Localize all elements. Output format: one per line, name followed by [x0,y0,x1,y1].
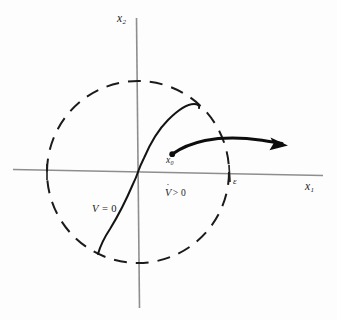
v-zero-symbol: V [92,203,99,214]
x1-axis-line [13,170,323,176]
phase-plane-figure: x2 x1 x0 ε V = 0 ˙V> 0 [0,0,337,320]
initial-state-label-base: x [166,154,170,165]
v-zero-curve [98,104,199,254]
v-zero-equals: = 0 [99,203,117,214]
x2-axis-label: x2 [117,13,126,25]
x2-axis-label-subscript: 2 [122,18,126,26]
x1-axis-label: x1 [305,181,314,193]
trajectory-arrowhead [270,137,289,150]
v-dot-inequality: > 0 [172,187,186,198]
x2-axis-line [137,18,140,308]
v-dot-overdot: ˙ [166,183,170,193]
v-dot-positive-label: ˙V> 0 [165,188,186,198]
epsilon-label: ε [233,177,237,186]
v-dot-symbol-group: ˙V [165,188,172,198]
initial-state-label-subscript: 0 [171,160,174,166]
v-zero-label: V = 0 [92,204,117,215]
initial-state-label: x0 [166,155,173,165]
x1-axis-label-subscript: 1 [310,186,314,194]
